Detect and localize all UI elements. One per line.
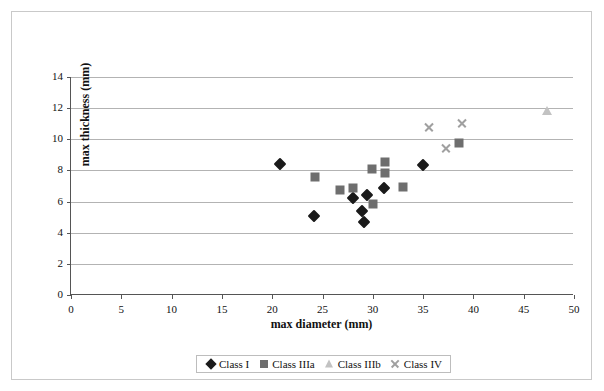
x-tick-mark	[272, 295, 273, 299]
square-marker	[367, 164, 376, 173]
y-tick-label: 2	[41, 258, 63, 269]
legend-item-class-iiia[interactable]: Class IIIa	[258, 358, 314, 370]
x-tick-label: 10	[159, 303, 185, 315]
y-tick-label: 6	[41, 196, 63, 207]
square-icon	[258, 359, 269, 370]
y-tick-mark	[67, 170, 71, 171]
x-tick-mark	[524, 295, 525, 299]
x-tick-label: 50	[561, 303, 587, 315]
gridline	[71, 202, 573, 203]
y-tick-label: 8	[41, 164, 63, 175]
diamond-marker	[377, 182, 390, 195]
square-marker	[335, 185, 344, 194]
gridline	[71, 139, 573, 140]
y-tick-mark	[67, 264, 71, 265]
y-tick-mark	[67, 202, 71, 203]
x-tick-mark	[71, 295, 72, 299]
legend-label: Class IV	[404, 358, 442, 370]
x-tick-mark	[423, 295, 424, 299]
cross-icon	[390, 359, 401, 370]
y-tick-label: 10	[41, 133, 63, 144]
cross-marker	[424, 122, 435, 133]
y-tick-label: 0	[41, 289, 63, 300]
x-tick-label: 40	[460, 303, 486, 315]
x-tick-label: 15	[209, 303, 235, 315]
diamond-marker	[355, 205, 368, 218]
x-tick-label: 25	[310, 303, 336, 315]
x-tick-mark	[222, 295, 223, 299]
y-tick-label: 4	[41, 227, 63, 238]
diamond-icon	[205, 359, 216, 370]
gridline	[71, 77, 573, 78]
y-tick-mark	[67, 139, 71, 140]
legend-label: Class I	[219, 358, 249, 370]
x-tick-label: 5	[108, 303, 134, 315]
legend-item-class-iv[interactable]: Class IV	[390, 358, 442, 370]
square-marker	[380, 157, 389, 166]
x-tick-mark	[473, 295, 474, 299]
chart-legend: Class IClass IIIaClass IIIbClass IV	[196, 355, 451, 373]
cross-marker	[441, 142, 452, 153]
diamond-marker	[308, 209, 321, 222]
plot-area: 02468101214 05101520253035404550 max thi…	[70, 77, 573, 295]
square-marker	[398, 182, 407, 191]
chart-figure: 02468101214 05101520253035404550 max thi…	[0, 0, 604, 391]
x-tick-mark	[574, 295, 575, 299]
y-tick-mark	[67, 77, 71, 78]
triangle-icon	[324, 359, 335, 370]
y-tick-label: 12	[41, 102, 63, 113]
y-axis-title: max thickness (mm)	[78, 5, 93, 225]
gridline	[71, 170, 573, 171]
x-tick-label: 45	[511, 303, 537, 315]
legend-item-class-i[interactable]: Class I	[205, 358, 249, 370]
diamond-marker	[357, 215, 370, 228]
y-tick-mark	[67, 233, 71, 234]
legend-item-class-iiib[interactable]: Class IIIb	[324, 358, 381, 370]
legend-label: Class IIIa	[272, 358, 314, 370]
x-tick-mark	[373, 295, 374, 299]
x-tick-label: 35	[410, 303, 436, 315]
x-tick-mark	[323, 295, 324, 299]
x-tick-label: 20	[259, 303, 285, 315]
x-tick-mark	[121, 295, 122, 299]
diamond-marker	[417, 159, 430, 172]
y-tick-mark	[67, 108, 71, 109]
gridline	[71, 108, 573, 109]
x-tick-mark	[172, 295, 173, 299]
x-axis-title: max diameter (mm)	[70, 317, 573, 332]
diamond-marker	[274, 158, 287, 171]
cross-marker	[457, 118, 468, 129]
x-tick-label: 30	[360, 303, 386, 315]
square-marker	[348, 183, 357, 192]
gridline	[71, 264, 573, 265]
legend-label: Class IIIb	[338, 358, 381, 370]
diamond-marker	[360, 188, 373, 201]
x-tick-label: 0	[58, 303, 84, 315]
square-marker	[311, 172, 320, 181]
gridline	[71, 233, 573, 234]
y-tick-label: 14	[41, 71, 63, 82]
